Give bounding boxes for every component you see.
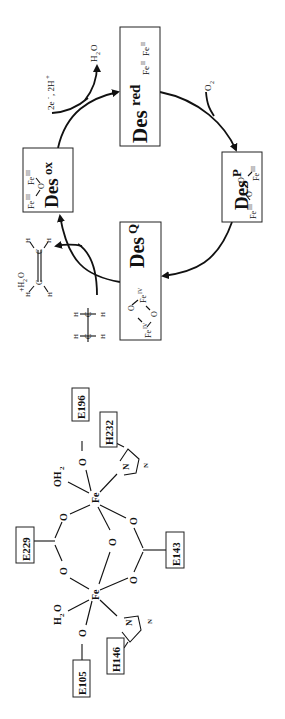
- svg-text:III: III: [25, 170, 31, 176]
- arc-p-to-q: [163, 222, 232, 276]
- svg-text:O: O: [245, 191, 254, 197]
- svg-text:O: O: [77, 458, 88, 466]
- svg-text:O: O: [203, 84, 213, 91]
- svg-text:H: H: [99, 312, 107, 317]
- svg-text:O: O: [58, 567, 69, 575]
- desred-label: Des: [128, 110, 152, 143]
- svg-text:H: H: [45, 238, 53, 243]
- state-desp: Des P Fe III O O Fe III: [222, 152, 262, 222]
- svg-text:III: III: [250, 166, 256, 172]
- catalytic-cycle: Des red Fe II Fe II Des P Fe III O: [17, 27, 262, 342]
- svg-text:2e: 2e: [46, 102, 56, 111]
- svg-text:E143: E143: [170, 542, 182, 566]
- product-alkene: C C H H H H +H 2 O: [17, 238, 54, 297]
- svg-text:O: O: [37, 183, 46, 189]
- plus-water-label: +H 2 O: [17, 272, 28, 292]
- residue-h146: H146: [107, 638, 124, 674]
- svg-text:2: 2: [58, 613, 66, 617]
- svg-text:II: II: [140, 61, 146, 65]
- residue-h232: H232: [100, 412, 117, 447]
- svg-text:III: III: [247, 204, 253, 210]
- svg-text:Q: Q: [125, 224, 140, 234]
- residue-e143: E143: [166, 532, 184, 568]
- svg-text:Fe: Fe: [139, 295, 148, 303]
- fe-bottom-label: Fe: [90, 589, 101, 600]
- svg-text:H: H: [72, 312, 80, 317]
- svg-text:O: O: [150, 311, 159, 317]
- electron-input-arrow: [52, 98, 88, 113]
- svg-text:H: H: [89, 55, 99, 62]
- svg-text:IV: IV: [137, 287, 143, 294]
- residue-e229: E229: [16, 527, 34, 563]
- svg-text:IV: IV: [142, 322, 148, 329]
- svg-text:, 2H: , 2H: [46, 80, 56, 96]
- water-bottom-label: H 2 O: [52, 604, 66, 625]
- svg-text:C: C: [84, 312, 93, 317]
- svg-text:O: O: [128, 576, 139, 584]
- svg-text:Des: Des: [126, 237, 148, 268]
- svg-text:+: +: [44, 75, 52, 79]
- o2-label: O 2: [203, 81, 215, 91]
- svg-text:O: O: [127, 305, 136, 311]
- state-desox: Des ox Fe III O Fe III: [23, 148, 73, 212]
- svg-text:O: O: [128, 517, 139, 525]
- svg-text:N: N: [142, 463, 150, 468]
- svg-text:C: C: [35, 280, 44, 285]
- svg-text:E229: E229: [20, 537, 32, 561]
- arc-q-to-ox: [60, 216, 120, 282]
- svg-text:H146: H146: [110, 646, 122, 672]
- svg-text:H: H: [46, 292, 54, 297]
- svg-text:III: III: [25, 194, 31, 200]
- svg-text:N: N: [121, 463, 131, 470]
- svg-text:N: N: [124, 619, 134, 626]
- svg-text:Des: Des: [41, 178, 62, 208]
- svg-text:H: H: [24, 238, 32, 243]
- svg-text:2: 2: [58, 466, 66, 470]
- diiron-desaturase-figure: Des red Fe II Fe II Des P Fe III O: [0, 0, 285, 719]
- water-output-arrow: [85, 66, 97, 100]
- svg-text:H232: H232: [103, 419, 115, 445]
- svg-text:P: P: [229, 169, 244, 177]
- svg-text:ox: ox: [40, 162, 55, 176]
- svg-text:2: 2: [209, 81, 215, 84]
- svg-text:O: O: [77, 629, 88, 637]
- svg-text:O: O: [89, 44, 99, 51]
- residue-e105: E105: [73, 660, 90, 697]
- state-desred: Des red Fe II Fe II: [120, 27, 160, 146]
- svg-text:Fe: Fe: [144, 330, 153, 338]
- arc-red-to-p: [160, 92, 236, 150]
- svg-text:Fe: Fe: [141, 47, 151, 56]
- svg-text:E196: E196: [75, 395, 87, 419]
- mu-oxo-label: O: [107, 538, 118, 546]
- svg-text:C: C: [84, 334, 93, 339]
- fe-top-label: Fe: [90, 492, 101, 503]
- svg-text:Fe: Fe: [27, 177, 36, 185]
- svg-text:2: 2: [95, 52, 101, 55]
- svg-text:O: O: [17, 272, 26, 278]
- desred-superscript: red: [127, 84, 143, 106]
- svg-text:Fe: Fe: [27, 201, 36, 209]
- svg-text:OH: OH: [52, 471, 63, 487]
- svg-text:H: H: [52, 617, 63, 625]
- substrate-alkane: C C H H H H: [72, 308, 107, 342]
- svg-text:Fe: Fe: [252, 173, 261, 181]
- water-out-label: H 2 O: [89, 44, 101, 62]
- svg-text:H: H: [72, 334, 80, 339]
- svg-text:Fe: Fe: [141, 66, 151, 75]
- residue-e196: E196: [72, 388, 89, 421]
- active-site-structure: Fe Fe O O O O O O O N N N N OH 2 H 2 O E…: [16, 388, 184, 697]
- electrons-protons-label: 2e - , 2H +: [44, 75, 56, 110]
- svg-text:II: II: [140, 42, 146, 46]
- arc-ox-to-red: [58, 92, 118, 148]
- svg-text:O: O: [237, 177, 246, 183]
- svg-text:O: O: [58, 513, 69, 521]
- svg-text:O: O: [52, 604, 63, 612]
- svg-text:H: H: [99, 334, 107, 339]
- svg-text:C: C: [35, 249, 44, 254]
- water-top-label: OH 2: [52, 466, 66, 487]
- svg-text:E105: E105: [76, 671, 88, 695]
- svg-text:-: -: [45, 97, 51, 99]
- svg-text:N: N: [146, 619, 154, 624]
- svg-text:Fe: Fe: [249, 211, 258, 219]
- svg-text:2: 2: [22, 279, 28, 282]
